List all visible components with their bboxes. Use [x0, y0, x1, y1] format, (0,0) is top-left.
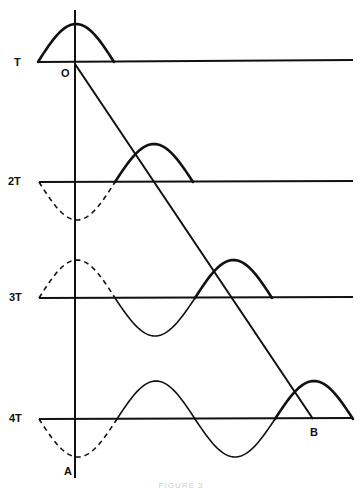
wave-rows — [38, 24, 353, 457]
wave-diagram — [0, 0, 362, 488]
thin-wave-arc — [115, 298, 195, 336]
point-label-o: O — [61, 68, 70, 79]
dashed-wave-arc — [39, 419, 117, 457]
thin-wave-arc — [195, 419, 275, 457]
wave-row-4t — [39, 381, 353, 457]
wave-row-2t — [39, 144, 353, 220]
wave-row-t — [38, 24, 353, 62]
wave-row-3t — [39, 260, 353, 336]
row-label-3t: 3T — [9, 292, 22, 303]
point-label-a: A — [64, 466, 72, 477]
thick-wave-arc — [195, 260, 272, 298]
thick-wave-arc — [115, 144, 193, 182]
row-label-t: T — [14, 57, 21, 68]
point-label-b: B — [310, 427, 318, 438]
baseline-line — [39, 181, 353, 182]
baseline-line — [38, 60, 353, 62]
dashed-wave-arc — [39, 260, 115, 298]
thick-wave-arc — [275, 381, 353, 419]
row-label-4t: 4T — [9, 413, 22, 424]
thin-wave-arc — [117, 381, 195, 419]
row-label-2t: 2T — [8, 176, 21, 187]
diagonal-line-o-to-b — [75, 64, 313, 419]
dashed-wave-arc — [39, 182, 115, 220]
figure-caption: FIGURE 3 — [0, 481, 362, 488]
baseline-line — [39, 418, 353, 419]
